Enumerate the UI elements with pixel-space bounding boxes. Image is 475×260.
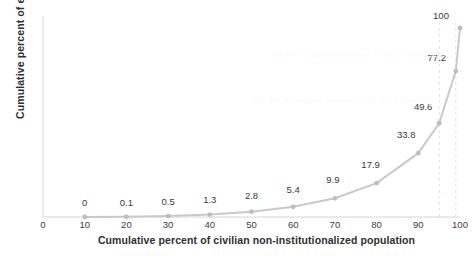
data-point-label: 0 [82,197,87,208]
x-axis-title: Cumulative percent of civilian non-insti… [42,234,471,246]
chart-annotation-text: Top 5% of spenders account for 50.4% of … [254,95,433,104]
x-axis-tick-label: 90 [413,219,424,230]
data-point-label: 17.9 [361,159,380,170]
chart-annotation-text: Top 1% of spenders account for 22.8% of … [270,50,449,59]
data-point-marker [249,209,254,214]
x-axis-tick-label: 30 [163,219,174,230]
data-point-marker [333,196,338,201]
data-point-label: 100 [433,10,449,21]
data-point-label: 9.9 [326,174,339,185]
x-axis-tick-label: 40 [205,219,216,230]
data-point-label: 1.3 [203,194,216,205]
y-axis-title: Cumulative percent of expenditures [14,0,26,128]
x-axis-tick-label: 100 [452,219,468,230]
x-axis-tick-label: 20 [121,219,132,230]
x-axis-tick-label: 10 [79,219,90,230]
data-point-label: 5.4 [287,184,300,195]
data-point-marker [453,69,458,74]
data-point-marker [374,181,379,186]
x-axis-tick-label: 50 [246,219,257,230]
data-point-marker [458,26,463,31]
x-axis-tick-label: 60 [288,219,299,230]
x-axis-tick-label: 70 [330,219,341,230]
data-point-label: 33.8 [397,129,416,140]
data-point-marker [437,121,442,126]
x-axis-tick-label: 0 [40,219,45,230]
data-point-marker [207,212,212,217]
data-point-marker [166,214,171,219]
data-point-label: 0.5 [161,196,174,207]
reference-line-label: 95 [435,190,443,199]
data-point-label: 0.1 [120,197,133,208]
data-point-marker [291,204,296,209]
reference-line-label: 99 [452,190,460,199]
data-point-label: 2.8 [245,190,258,201]
data-point-marker [416,151,421,156]
y-axis-title-wrap: Cumulative percent of expenditures [0,0,40,220]
chart-container: Cumulative percent of expenditures Cumul… [0,0,475,260]
x-axis-tick-label: 80 [371,219,382,230]
